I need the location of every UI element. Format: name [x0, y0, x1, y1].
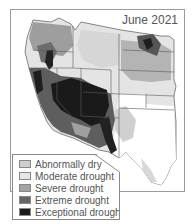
swatch-severe-drought	[19, 184, 31, 192]
legend-label: Moderate drought	[35, 171, 114, 182]
legend-label: Exceptional drought	[35, 207, 123, 218]
swatch-extreme-drought	[19, 196, 31, 204]
swatch-abnormally-dry	[19, 160, 31, 168]
legend-item-abnormally-dry: Abnormally dry	[19, 158, 102, 170]
legend-item-extreme-drought: Extreme drought	[19, 194, 109, 206]
legend-label: Severe drought	[35, 183, 103, 194]
legend-label: Abnormally dry	[35, 159, 102, 170]
legend: Abnormally dry Moderate drought Severe d…	[12, 154, 120, 220]
swatch-exceptional-drought	[19, 208, 31, 216]
legend-label: Extreme drought	[35, 195, 109, 206]
legend-item-exceptional-drought: Exceptional drought	[19, 206, 123, 218]
swatch-moderate-drought	[19, 172, 31, 180]
map-title: June 2021	[122, 13, 178, 27]
legend-item-moderate-drought: Moderate drought	[19, 170, 114, 182]
legend-item-severe-drought: Severe drought	[19, 182, 103, 194]
